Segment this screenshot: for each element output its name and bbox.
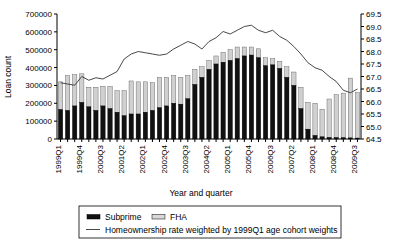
bar-segment-fha <box>179 77 183 104</box>
x-axis-tick-label: 2008Q1 <box>308 144 317 173</box>
bar-segment-fha <box>94 87 98 110</box>
bar-segment-fha <box>101 86 105 106</box>
bar-segment-subprime <box>200 77 204 139</box>
bar-segment-subprime <box>270 65 274 139</box>
left-axis-tick-label: 500000 <box>25 46 52 55</box>
x-axis-tick-label: 2000Q3 <box>96 144 105 173</box>
bar-segment-subprime <box>186 99 190 139</box>
right-axis-tick-label: 66.0 <box>366 98 382 107</box>
bar-segment-subprime <box>179 104 183 139</box>
right-axis-tick-label: 67.0 <box>366 73 382 82</box>
left-axis-tick-label: 700000 <box>25 10 52 19</box>
bar-segment-fha <box>299 87 303 108</box>
bar-segment-subprime <box>299 109 303 139</box>
bar-segment-subprime <box>214 64 218 139</box>
x-axis-tick-label: 2001Q2 <box>117 144 126 173</box>
bar-segment-fha <box>355 93 359 139</box>
bar-segment-subprime <box>249 55 253 139</box>
x-axis-tick-label: 2005Q1 <box>223 144 232 173</box>
legend-label-homeownership-rate: Homeownership rate weighted by 1999Q1 ag… <box>105 225 337 235</box>
bar-segment-fha <box>157 77 161 107</box>
bar-segment-subprime <box>193 85 197 139</box>
bar-segment-subprime <box>235 59 239 139</box>
bar-segment-fha <box>122 91 126 116</box>
bar-segment-subprime <box>164 106 168 139</box>
bar-segment-subprime <box>87 107 91 139</box>
bar-segment-subprime <box>115 112 119 139</box>
right-axis-tick-label: 64.5 <box>366 135 382 144</box>
y-axis-title: Loan count <box>3 55 13 98</box>
bar-segment-subprime <box>72 106 76 139</box>
loan-count-chart: 0100000200000300000400000500000600000700… <box>0 0 410 252</box>
bar-segment-fha <box>249 47 253 55</box>
bar-segment-subprime <box>129 114 133 139</box>
bar-segment-subprime <box>94 110 98 139</box>
bar-segment-fha <box>235 47 239 59</box>
bar-segment-subprime <box>101 106 105 139</box>
legend-label-subprime: Subprime <box>105 212 142 222</box>
bar-segment-fha <box>171 76 175 104</box>
bar-segment-fha <box>228 50 232 61</box>
bar-segment-subprime <box>228 60 232 139</box>
bar-segment-subprime <box>80 102 84 139</box>
bar-segment-subprime <box>355 138 359 139</box>
chart-canvas: 0100000200000300000400000500000600000700… <box>0 0 410 252</box>
bar-segment-fha <box>150 83 154 111</box>
bar-segment-subprime <box>292 85 296 139</box>
x-axis-tick-label: 2006Q3 <box>266 144 275 173</box>
bar-segment-fha <box>256 49 260 58</box>
legend-swatch-fha <box>152 215 165 220</box>
right-axis-tick-label: 68.5 <box>366 35 382 44</box>
bar-segment-fha <box>164 77 168 106</box>
right-axis-tick-label: 65.5 <box>366 110 382 119</box>
x-axis-tick-label: 2005Q4 <box>244 144 253 173</box>
bar-segment-subprime <box>65 110 69 139</box>
left-axis-tick-label: 600000 <box>25 28 52 37</box>
bar-segment-fha <box>108 86 112 108</box>
bar-segment-fha <box>334 95 338 138</box>
x-axis-tick-label: 1999Q1 <box>54 144 63 173</box>
bar-segment-subprime <box>313 135 317 139</box>
x-axis-tick-label: 2004Q2 <box>202 144 211 173</box>
bar-segment-fha <box>242 47 246 56</box>
bar-segment-fha <box>136 82 140 114</box>
right-axis-tick-label: 65.0 <box>366 123 382 132</box>
bar-segment-subprime <box>136 114 140 139</box>
x-axis-tick-label: 2008Q4 <box>329 144 338 173</box>
bar-segment-fha <box>143 82 147 112</box>
left-axis-tick-label: 200000 <box>25 99 52 108</box>
bar-segment-fha <box>72 75 76 106</box>
bar-segment-fha <box>58 82 62 110</box>
bar-segment-fha <box>87 87 91 107</box>
right-axis-tick-label: 66.5 <box>366 85 382 94</box>
bar-segment-subprime <box>171 103 175 139</box>
right-axis-tick-label: 68.0 <box>366 48 382 57</box>
bar-segment-fha <box>214 56 218 64</box>
bar-segment-subprime <box>221 62 225 139</box>
x-axis-tick-label: 1999Q4 <box>75 144 84 173</box>
bar-segment-subprime <box>348 138 352 139</box>
left-axis-tick-label: 300000 <box>25 81 52 90</box>
bar-segment-subprime <box>143 112 147 139</box>
bar-segment-subprime <box>150 110 154 139</box>
bar-segment-subprime <box>341 138 345 139</box>
bar-segment-fha <box>207 60 211 69</box>
legend-swatch-subprime <box>87 215 100 220</box>
left-axis-tick-label: 0 <box>48 135 53 144</box>
bar-segment-subprime <box>122 116 126 139</box>
bar-segment-fha <box>320 109 324 137</box>
bar-segment-fha <box>327 99 331 137</box>
bar-segment-subprime <box>285 77 289 139</box>
bar-segment-fha <box>221 52 225 62</box>
bar-segment-subprime <box>256 58 260 139</box>
bar-segment-subprime <box>207 69 211 139</box>
bar-segment-fha <box>115 91 119 112</box>
legend-label-fha: FHA <box>170 212 187 222</box>
bar-segment-fha <box>348 78 352 138</box>
left-axis-tick-label: 100000 <box>25 117 52 126</box>
bar-segment-fha <box>341 93 345 138</box>
bar-segment-fha <box>129 81 133 114</box>
right-axis-tick-label: 69.0 <box>366 23 382 32</box>
x-axis-tick-label: 2002Q4 <box>160 144 169 173</box>
bar-segment-subprime <box>157 108 161 139</box>
